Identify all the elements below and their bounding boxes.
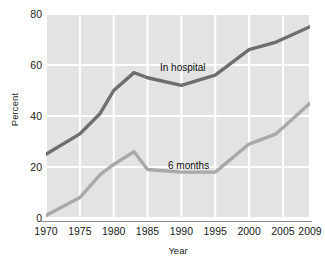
plot-area [46,14,310,218]
y-tick-label: 60 [18,60,42,71]
series-label-in-hospital: In hospital [160,63,206,73]
y-tick-label: 0 [18,213,42,224]
x-axis-title: Year [46,245,310,256]
x-axis-line [40,221,312,222]
y-tick-label: 80 [18,9,42,20]
y-tick-label: 40 [18,111,42,122]
series-label-6-months: 6 months [168,161,209,171]
y-axis-title: Percent [9,70,20,150]
y-tick-label: 20 [18,162,42,173]
series-lines [46,14,310,218]
line-chart: Percent 020406080 1970197519801985199019… [0,0,325,264]
x-tick-label: 2009 [290,226,325,237]
